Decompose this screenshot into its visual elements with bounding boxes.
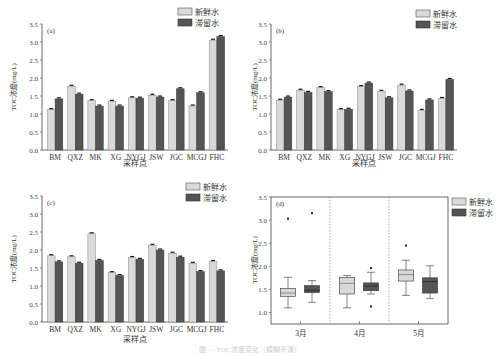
outlier-point [405,244,407,246]
bar-stagnant [75,94,83,150]
legend-swatch-fresh [178,8,192,15]
y-tick-label: 3.0 [258,217,267,225]
panel-d: 1.01.52.02.53.03.5TOC浓度(mg/L)(d)3月4月5月新鲜… [250,194,493,339]
figure-canvas: 0.00.51.01.52.02.53.03.5TOC浓度(mg/L)(a)BM… [0,0,499,356]
bar-stagnant [197,93,205,150]
bar-fresh [189,263,197,322]
y-tick-label: 0.0 [29,147,38,155]
x-tick-label: BM [278,153,290,162]
y-tick-label: 0.5 [258,129,267,137]
bar-fresh [108,273,116,322]
x-tick-label: MK [90,325,103,334]
plot-frame [271,197,448,324]
x-tick-label: 3月 [295,329,306,338]
legend-swatch-stagnant [178,19,192,26]
legend-swatch-stagnant [452,209,466,216]
y-tick-label: 3.0 [258,39,267,47]
y-tick-label: 0.0 [258,147,267,155]
y-tick-label: 0.0 [29,319,38,327]
legend: 新鲜水滞留水 [452,197,493,218]
bar-fresh [169,101,177,150]
y-tick-label: 3.5 [258,21,267,29]
x-tick-label: FHC [439,153,454,162]
y-tick-label: 0.5 [29,129,38,137]
y-tick-label: 3.0 [29,211,38,219]
x-tick-label: QXZ [297,153,313,162]
x-tick-label: MCGJ [187,325,207,334]
bar-fresh [128,258,136,322]
x-tick-label: XG [339,153,350,162]
bar-fresh [378,91,386,150]
bar-stagnant [304,92,312,150]
panel-label: (d) [276,200,285,208]
x-tick-label: MK [319,153,332,162]
legend-swatch-fresh [186,183,200,190]
bar-fresh [357,87,365,150]
y-tick-label: 3.5 [29,21,38,29]
bar-fresh [209,262,217,322]
y-tick-label: 2.5 [258,57,267,65]
x-tick-label: MK [90,153,103,162]
bar-stagnant [345,109,353,150]
bar-stagnant [116,276,124,322]
y-tick-label: 1.5 [258,93,267,101]
bar-fresh [398,85,406,150]
y-tick-label: 2.0 [29,247,38,255]
y-tick-label: 1.0 [29,283,38,291]
y-tick-label: 2.5 [258,240,267,248]
bar-stagnant [55,99,63,150]
bar-fresh [88,101,96,150]
box-stagnant [423,266,438,299]
bar-stagnant [96,260,104,322]
bar-fresh [128,98,136,150]
legend: 新鲜水滞留水 [416,9,457,30]
bar-fresh [337,110,345,150]
bar-stagnant [156,250,164,322]
bar-stagnant [365,83,373,150]
bar-fresh [68,86,76,150]
bar-fresh [149,95,157,150]
y-tick-label: 2.0 [258,75,267,83]
bar-stagnant [217,37,225,150]
x-tick-label: JGC [170,325,183,334]
outlier-point [370,267,372,269]
y-tick-label: 3.5 [258,194,267,202]
x-tick-label: 5月 [413,329,424,338]
panel-label: (c) [47,199,55,207]
legend: 新鲜水滞留水 [178,7,219,28]
y-axis-label: TOC浓度(mg/L) [250,235,259,283]
y-tick-label: 1.5 [29,265,38,273]
figure-caption: 图 — TOC浓度变化（模糊不清） [199,345,300,354]
bar-fresh [88,234,96,322]
y-tick-label: 0.5 [29,301,38,309]
outlier-point [287,218,289,220]
y-tick-label: 2.0 [29,75,38,83]
bar-fresh [47,256,55,322]
x-tick-label: JGC [170,153,183,162]
x-tick-label: JGC [399,153,412,162]
x-tick-label: XG [110,153,121,162]
legend-swatch-fresh [452,198,466,205]
y-tick-label: 2.0 [258,263,267,271]
bar-stagnant [426,100,434,150]
x-tick-label: JSW [149,153,164,162]
x-tick-label: FHC [210,325,225,334]
panel-label: (a) [47,27,55,35]
legend-label-fresh: 新鲜水 [203,182,227,192]
bar-stagnant [176,89,184,150]
panel-a: 0.00.51.01.52.02.53.03.5TOC浓度(mg/L)(a)BM… [9,7,228,168]
y-tick-label: 2.5 [29,229,38,237]
bar-fresh [108,101,116,150]
x-axis-label: 采样点 [123,158,147,168]
legend-swatch-stagnant [186,194,200,201]
bar-stagnant [176,257,184,322]
bar-stagnant [325,92,333,150]
bar-fresh [209,40,217,150]
y-tick-label: 1.5 [258,286,267,294]
y-tick-label: 3.0 [29,39,38,47]
y-tick-label: 2.5 [29,57,38,65]
x-tick-label: NYGJ [126,325,145,334]
bar-fresh [276,100,284,150]
x-tick-label: FHC [210,153,225,162]
y-tick-label: 1.0 [29,111,38,119]
